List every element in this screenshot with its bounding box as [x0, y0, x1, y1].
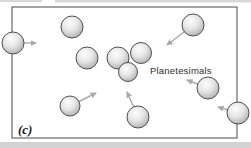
scan-artifact-top-right [55, 0, 251, 3]
planetesimal-sphere [2, 32, 24, 54]
planetesimal-sphere [60, 96, 80, 116]
scan-artifact-top-left [0, 0, 42, 2]
planetesimal-sphere [119, 63, 138, 82]
planetesimal-sphere [127, 106, 149, 128]
planetesimal-sphere [61, 16, 83, 38]
planetesimal-sphere [197, 77, 219, 99]
planetesimals-label: Planetesimals [150, 65, 212, 76]
planetesimal-sphere [227, 102, 249, 124]
planetesimal-sphere [76, 47, 98, 69]
panel-letter-label: (c) [18, 122, 32, 137]
planetesimals-diagram: Planetesimals (c) [0, 0, 251, 148]
scan-artifact-bottom [0, 142, 251, 148]
planetesimal-sphere [131, 43, 152, 64]
figure-panel-c: Planetesimals (c) [0, 0, 251, 148]
planetesimal-sphere [182, 14, 204, 36]
